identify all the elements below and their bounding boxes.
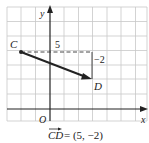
- vertical-component-label: −2: [94, 54, 105, 65]
- vector-arrowhead-icon: [81, 73, 92, 80]
- point-c-label: C: [10, 38, 18, 50]
- y-axis-arrow-icon: [47, 5, 53, 13]
- axes: [7, 5, 148, 121]
- y-axis-label: y: [39, 8, 45, 19]
- point-d-label: D: [93, 80, 102, 92]
- grid: [7, 7, 147, 121]
- origin-label: O: [39, 114, 46, 125]
- caption-value: = (5, −2): [64, 129, 103, 142]
- caption-vector: CD: [48, 129, 63, 141]
- caption: CD = (5, −2): [48, 128, 103, 143]
- horizontal-component-label: 5: [55, 39, 60, 50]
- coordinate-diagram: y x O 5 −2 C D CD = (5, −2): [0, 0, 149, 142]
- x-axis-label: x: [140, 114, 146, 125]
